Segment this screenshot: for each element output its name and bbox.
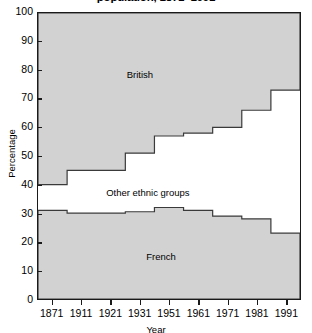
x-axis-label: Year xyxy=(0,324,312,333)
y-tick-10: 10 xyxy=(7,265,33,275)
band-label-british: British xyxy=(127,69,153,80)
y-tick-70: 70 xyxy=(7,92,33,102)
y-tick-100: 100 xyxy=(7,6,33,16)
chart-title: population, 1871–1991 xyxy=(0,0,312,3)
y-tick-mark-30 xyxy=(37,214,42,215)
band-british xyxy=(38,13,300,185)
y-tick-90: 90 xyxy=(7,35,33,45)
y-tick-0: 0 xyxy=(7,294,33,304)
y-tick-mark-50 xyxy=(37,156,42,157)
band-label-other-ethnic-groups: Other ethnic groups xyxy=(106,187,189,198)
y-tick-80: 80 xyxy=(7,64,33,74)
y-tick-mark-80 xyxy=(37,70,42,71)
x-tick-mark-1921 xyxy=(110,300,111,305)
x-tick-mark-1971 xyxy=(228,300,229,305)
y-tick-mark-20 xyxy=(37,242,42,243)
chart-page: population, 1871–1991 010203040506070809… xyxy=(0,0,312,333)
y-tick-30: 30 xyxy=(7,208,33,218)
y-tick-mark-70 xyxy=(37,98,42,99)
x-tick-mark-1951 xyxy=(169,300,170,305)
x-tick-mark-1931 xyxy=(140,300,141,305)
y-tick-mark-60 xyxy=(37,127,42,128)
y-tick-mark-10 xyxy=(37,271,42,272)
y-tick-20: 20 xyxy=(7,236,33,246)
x-tick-mark-1981 xyxy=(257,300,258,305)
x-tick-mark-1871 xyxy=(52,300,53,305)
x-tick-mark-1991 xyxy=(286,300,287,305)
y-tick-mark-40 xyxy=(37,185,42,186)
y-tick-mark-90 xyxy=(37,41,42,42)
x-tick-1991: 1991 xyxy=(266,307,306,319)
x-tick-mark-1911 xyxy=(81,300,82,305)
band-label-french: French xyxy=(146,251,176,262)
x-tick-mark-1961 xyxy=(198,300,199,305)
y-axis-label: Percentage xyxy=(6,119,17,189)
